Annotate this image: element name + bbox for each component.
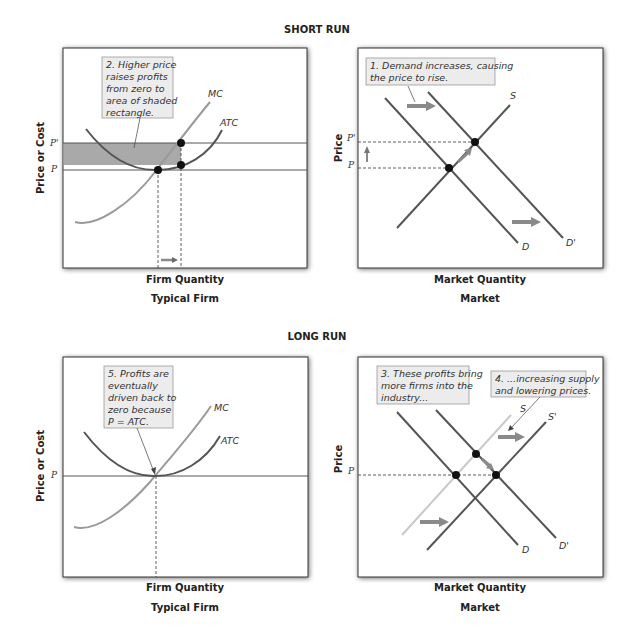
- svg-text:zero because: zero because: [107, 404, 171, 415]
- equilibrium-point-new: [471, 138, 479, 146]
- equilibrium-point-long-run-initial: [452, 471, 460, 479]
- svg-text:2. Higher price: 2. Higher price: [106, 59, 176, 70]
- panel-long-run-firm: P MC ATC Price or Cost 5. Profits are ev…: [35, 357, 308, 577]
- svg-text:rectangle.: rectangle.: [106, 107, 154, 118]
- svg-text:more firms into the: more firms into the: [381, 380, 473, 391]
- panel-short-run-market: P' P S D D' Price 1. Demand increases, c…: [333, 48, 603, 268]
- label-atc: ATC: [219, 117, 239, 128]
- y-axis-label: Price: [333, 445, 344, 474]
- svg-text:1. Demand increases, causing: 1. Demand increases, causing: [370, 60, 513, 71]
- tick-p: P: [347, 466, 355, 476]
- label-s: S: [520, 403, 526, 414]
- label-d-prime: D': [566, 237, 576, 248]
- y-axis-label: Price: [333, 134, 344, 163]
- label-s-prime: S': [548, 411, 557, 422]
- svg-text:eventually: eventually: [108, 380, 158, 391]
- caption-long-market: Market: [415, 602, 545, 613]
- panel-short-run-firm: P' P MC ATC Price or Cost 2. Higher pric…: [35, 48, 307, 268]
- annotation-note-3: 3. These profits bring more firms into t…: [377, 366, 483, 404]
- label-mc: MC: [208, 88, 223, 99]
- equilibrium-point-long-run-new: [492, 471, 500, 479]
- tick-p-prime: P': [49, 138, 59, 148]
- caption-short-firm: Typical Firm: [120, 293, 250, 304]
- caption-short-market: Market: [415, 293, 545, 304]
- plot-frame: [63, 357, 308, 577]
- svg-text:industry...: industry...: [381, 392, 428, 403]
- svg-text:driven back to: driven back to: [108, 392, 176, 403]
- tick-p: P: [50, 470, 58, 480]
- panel-long-run-market: P S S' D D' Price 3. These profits bring…: [333, 357, 603, 577]
- x-axis-label-short-market: Market Quantity: [415, 274, 545, 285]
- y-axis-label: Price or Cost: [35, 430, 46, 502]
- tick-p: P: [50, 164, 58, 174]
- tick-p: P: [347, 160, 355, 170]
- label-d: D: [522, 241, 529, 252]
- svg-text:from zero to: from zero to: [106, 83, 165, 94]
- svg-text:4. ...increasing supply: 4. ...increasing supply: [495, 373, 600, 384]
- y-axis-label: Price or Cost: [35, 122, 46, 194]
- x-axis-label-long-market: Market Quantity: [415, 582, 545, 593]
- equilibrium-point-short-run: [472, 450, 480, 458]
- svg-text:and lowering prices.: and lowering prices.: [495, 385, 591, 396]
- equilibrium-point-initial: [445, 164, 453, 172]
- svg-text:raises profits: raises profits: [106, 71, 168, 82]
- svg-text:3. These profits bring: 3. These profits bring: [381, 368, 483, 379]
- x-axis-label-long-firm: Firm Quantity: [120, 582, 250, 593]
- point-p-prime-mc: [177, 139, 185, 147]
- point-atc-at-q-prime: [177, 161, 185, 169]
- label-d-prime: D': [559, 540, 569, 551]
- label-atc: ATC: [220, 435, 240, 446]
- label-s: S: [510, 90, 516, 101]
- svg-text:area of shaded: area of shaded: [106, 95, 178, 106]
- svg-text:P = ATC.: P = ATC.: [108, 416, 149, 427]
- point-min-atc: [154, 166, 162, 174]
- label-d: D: [522, 544, 529, 555]
- economics-diagram: P' P MC ATC Price or Cost 2. Higher pric…: [0, 0, 635, 640]
- tick-p-prime: P': [346, 133, 356, 143]
- x-axis-label-short-firm: Firm Quantity: [120, 274, 250, 285]
- label-mc: MC: [214, 402, 229, 413]
- caption-long-firm: Typical Firm: [120, 602, 250, 613]
- svg-text:the price to rise.: the price to rise.: [370, 72, 448, 83]
- svg-text:5. Profits are: 5. Profits are: [108, 368, 169, 379]
